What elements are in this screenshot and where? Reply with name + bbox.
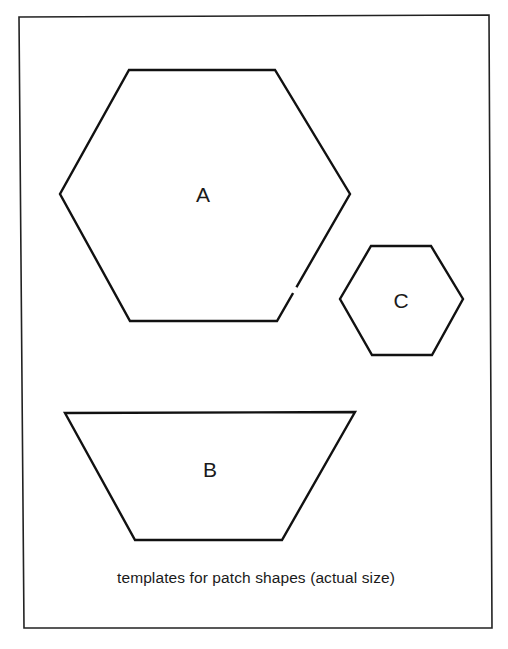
- shape-b-label: B: [203, 459, 217, 480]
- shape-a-label: A: [196, 184, 210, 205]
- patch-templates-figure: A B C templates for patch shapes (actual…: [0, 0, 508, 649]
- figure-caption: templates for patch shapes (actual size): [117, 569, 395, 587]
- hexagon-a-print-gap: [293, 287, 296, 293]
- templates-drawing: [0, 0, 508, 649]
- shape-c-label: C: [393, 290, 408, 311]
